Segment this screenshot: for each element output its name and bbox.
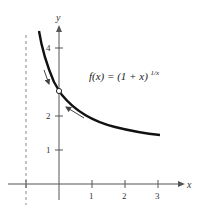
function-label-exponent: 1/x — [151, 69, 160, 77]
hole-marker — [56, 88, 61, 93]
x-tick-label: 2 — [122, 191, 127, 201]
x-tick-label: 3 — [155, 191, 160, 201]
chart: x y 1 2 3 1 2 4 f(x) = (1 + x) 1/x — [0, 0, 200, 210]
y-axis-arrow-icon — [56, 25, 62, 32]
y-axis-label: y — [55, 12, 61, 23]
x-axis-arrow-icon — [178, 181, 185, 187]
arrow-left-approach-icon — [44, 70, 49, 84]
y-tick-label: 4 — [46, 43, 51, 53]
function-label: f(x) = (1 + x) 1/x — [89, 69, 160, 83]
y-tick-label: 2 — [46, 111, 51, 121]
function-curve — [39, 31, 160, 135]
function-label-main: f(x) = (1 + x) — [89, 70, 148, 83]
y-tick-label: 1 — [46, 145, 51, 155]
x-axis-label: x — [186, 179, 192, 190]
x-tick-label: 1 — [89, 191, 94, 201]
